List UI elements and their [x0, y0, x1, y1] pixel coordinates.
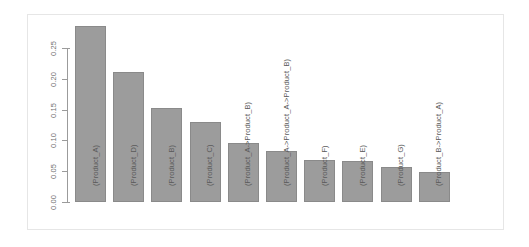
- bar-label-8: (Product_G): [396, 144, 405, 186]
- bar-2[interactable]: (Product_B): [151, 108, 182, 202]
- bar-label-1: (Product_D): [129, 144, 138, 186]
- y-tick-label-5-wrap: 0.25: [44, 43, 62, 53]
- bar-label-0: (Product_A): [91, 145, 100, 186]
- bar-label-9: (Product_B->Product_A): [434, 102, 443, 186]
- y-tick-label-3-wrap: 0.15: [44, 105, 62, 115]
- y-tick-2: [62, 140, 67, 141]
- bar-4[interactable]: (Product_A->Product_B): [228, 143, 259, 202]
- y-tick-label-4-wrap: 0.20: [44, 74, 62, 84]
- y-tick-label-4: 0.20: [49, 72, 58, 87]
- y-tick-4: [62, 79, 67, 80]
- bar-6[interactable]: (Product_F): [304, 160, 335, 202]
- y-axis-line: [67, 48, 68, 203]
- y-tick-1: [62, 171, 67, 172]
- plot-area: 0.00 0.05 0.10 0.15 0.20 0.25 (Product_A…: [0, 0, 529, 247]
- y-tick-label-0-wrap: 0.00: [44, 197, 62, 207]
- bar-label-5: (Product_A->Product_A->Product_B): [282, 59, 291, 186]
- y-tick-0: [62, 202, 67, 203]
- bar-3[interactable]: (Product_C): [190, 122, 221, 202]
- bar-label-3: (Product_C): [205, 144, 214, 186]
- bar-label-6: (Product_F): [320, 145, 329, 186]
- bar-0[interactable]: (Product_A): [75, 26, 106, 202]
- bar-8[interactable]: (Product_G): [381, 167, 412, 202]
- y-tick-label-5: 0.25: [49, 41, 58, 56]
- y-tick-label-2: 0.10: [49, 133, 58, 148]
- bar-5[interactable]: (Product_A->Product_A->Product_B): [266, 151, 297, 202]
- y-tick-5: [62, 48, 67, 49]
- y-tick-3: [62, 110, 67, 111]
- y-tick-label-3: 0.15: [49, 103, 58, 118]
- bar-9[interactable]: (Product_B->Product_A): [419, 172, 450, 202]
- bar-label-2: (Product_B): [167, 145, 176, 186]
- y-tick-label-1: 0.05: [49, 164, 58, 179]
- y-tick-label-0: 0.00: [49, 195, 58, 210]
- chart-figure: 0.00 0.05 0.10 0.15 0.20 0.25 (Product_A…: [0, 0, 529, 247]
- y-tick-label-1-wrap: 0.05: [44, 166, 62, 176]
- y-tick-label-2-wrap: 0.10: [44, 135, 62, 145]
- bar-7[interactable]: (Product_E): [342, 161, 373, 202]
- bar-label-4: (Product_A->Product_B): [243, 102, 252, 186]
- bar-label-7: (Product_E): [358, 145, 367, 186]
- bar-1[interactable]: (Product_D): [113, 72, 144, 202]
